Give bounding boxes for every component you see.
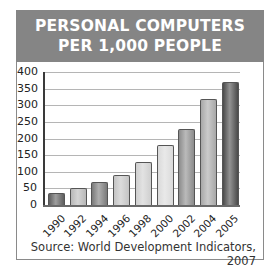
bar-1994: [91, 182, 108, 205]
y-tick-label: 100: [17, 166, 37, 178]
y-tick-label: 150: [17, 149, 37, 161]
title-line-1: PERSONAL COMPUTERS: [16, 16, 264, 36]
y-tick-label: 350: [17, 83, 37, 95]
y-tick-label: 0: [17, 199, 37, 211]
gridline: [44, 89, 240, 90]
bar-2000: [157, 145, 174, 205]
y-tick-label: 200: [17, 133, 37, 145]
y-tick-label: 300: [17, 99, 37, 111]
chart-title: PERSONAL COMPUTERS PER 1,000 PEOPLE: [16, 10, 264, 62]
bar-1996: [113, 175, 130, 205]
y-tick-label: 400: [17, 66, 37, 78]
bar-1998: [135, 162, 152, 205]
y-tick-label: 250: [17, 116, 37, 128]
bar-2005: [222, 82, 239, 205]
title-line-2: PER 1,000 PEOPLE: [16, 36, 264, 56]
bar-2002: [178, 129, 195, 205]
y-axis: [43, 72, 45, 206]
bar-1992: [70, 188, 87, 205]
x-axis: [43, 205, 240, 207]
source-note: Source: World Development Indicators, 20…: [16, 240, 256, 268]
bar-1990: [48, 193, 65, 205]
y-tick-label: 50: [17, 182, 37, 194]
bar-2004: [200, 99, 217, 205]
gridline: [44, 72, 240, 73]
